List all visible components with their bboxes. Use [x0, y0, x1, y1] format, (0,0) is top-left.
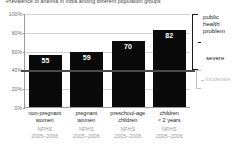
y-axis-tick-label: 80%: [12, 30, 22, 36]
y-axis-tick-label: 0%: [15, 105, 22, 111]
survey-source: NFHS: [149, 126, 191, 133]
group-name-line1: children: [149, 110, 191, 117]
group-name-line2: < 2 years: [149, 117, 191, 124]
bar-value-label: 82: [153, 32, 186, 39]
severe-tick-dash: [198, 42, 201, 43]
phr-line-1: public: [203, 14, 219, 20]
bar-value-label: 59: [70, 54, 103, 61]
bar: 55: [29, 55, 62, 107]
bar: 70: [112, 41, 145, 107]
group-name-line2: children: [107, 117, 149, 124]
group-name-line1: pregnant: [66, 110, 108, 117]
survey-years: 2005–2006: [107, 133, 149, 140]
x-axis-label: pregnantwomenNFHS2005–2006: [66, 110, 108, 140]
public-health-problem-label: public health problem: [203, 14, 237, 34]
survey-source: NFHS: [107, 126, 149, 133]
survey-years: 2005–2006: [66, 133, 108, 140]
severe-label: severe: [206, 55, 224, 62]
plot-area: 100%80%60%40%20%0% 55597082: [24, 14, 190, 108]
severity-scale: public health problem severe moderate: [192, 14, 237, 108]
phr-line-2: health: [203, 21, 220, 27]
bar-value-label: 70: [112, 43, 145, 50]
group-name-line1: preschool-age: [107, 110, 149, 117]
x-axis-labels: non-pregnantwomenNFHS2005–2006pregnantwo…: [24, 110, 190, 140]
survey-years: 2005–2006: [149, 133, 191, 140]
survey-source: NFHS: [24, 126, 66, 133]
moderate-tick-dash: [201, 80, 204, 81]
moderate-label: moderate: [205, 76, 231, 83]
bar: 59: [70, 52, 103, 107]
threshold-line-40-percent: [21, 70, 195, 72]
y-axis-tick-label: 60%: [12, 49, 22, 55]
x-axis-label: children< 2 yearsNFHS2005–2006: [149, 110, 191, 140]
bar-slot: 59: [66, 14, 107, 107]
bar-series: 55597082: [25, 14, 190, 107]
survey-years: 2005–2006: [24, 133, 66, 140]
group-name-line2: women: [66, 117, 108, 124]
x-axis-label: preschool-agechildrenNFHS2005–2006: [107, 110, 149, 140]
bar: 82: [153, 30, 186, 107]
x-axis-label: non-pregnantwomenNFHS2005–2006: [24, 110, 66, 140]
anemia-prevalence-chart: Prevalence of anemia in India among diff…: [0, 0, 237, 165]
group-name-line1: non-pregnant: [24, 110, 66, 117]
bar-slot: 55: [25, 14, 66, 107]
y-axis-tick-label: 100%: [9, 11, 22, 17]
chart-title: Prevalence of anemia in India among diff…: [6, 0, 206, 4]
bar-slot: 82: [149, 14, 190, 107]
bar-value-label: 55: [29, 57, 62, 64]
y-axis-tick-mark: [23, 108, 25, 109]
y-axis-tick-label: 20%: [12, 86, 22, 92]
phr-line-3: problem: [203, 28, 225, 34]
bar-slot: 70: [108, 14, 149, 107]
survey-source: NFHS: [66, 126, 108, 133]
group-name-line2: women: [24, 117, 66, 124]
